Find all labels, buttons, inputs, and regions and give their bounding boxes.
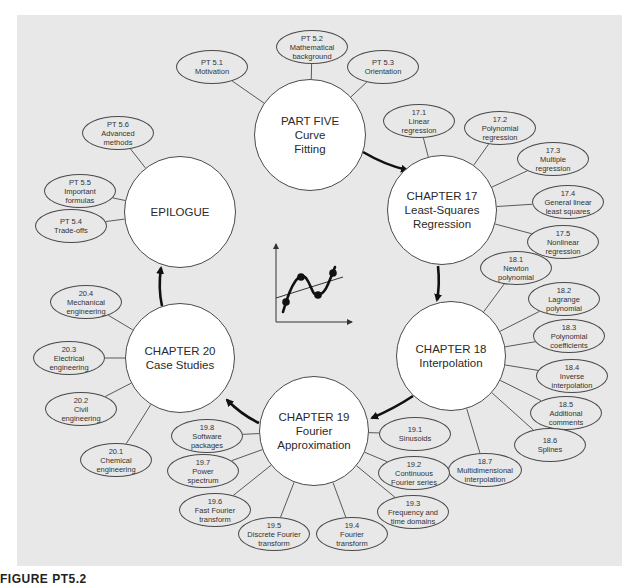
topic-node: 17.2Polynomialregression — [464, 111, 536, 145]
connector-line — [232, 81, 264, 103]
topic-label-line: PT 5.1 — [201, 58, 223, 67]
hub-part5: PART FIVECurveFitting — [254, 79, 366, 191]
connector-line — [500, 380, 541, 400]
topic-label-line: packages — [191, 441, 223, 450]
topic-label-line: transform — [336, 539, 368, 548]
topic-node: 19.5Discrete Fouriertransform — [238, 517, 310, 551]
hub-label-line: EPILOGUE — [151, 205, 210, 219]
topic-label-line: least squares — [546, 207, 591, 216]
topic-label-line: 17.3 — [546, 146, 561, 155]
topic-label-line: comments — [549, 418, 584, 427]
figure-caption: FIGURE PT5.2 — [0, 572, 87, 583]
topic-label-line: 20.2 — [74, 396, 89, 405]
connector-line — [232, 450, 263, 461]
topic-label-line: PT 5.5 — [69, 178, 91, 187]
topic-label-line: Mechanical — [67, 298, 105, 307]
topic-label-line: transform — [199, 515, 231, 524]
topic-label-line: Frequency and — [388, 508, 438, 517]
hub-label-line: Least-Squares — [405, 203, 480, 217]
connector-line — [495, 224, 531, 234]
topic-label-line: 17.2 — [493, 115, 508, 124]
topic-node: PT 5.2Mathematicalbackground — [276, 30, 348, 64]
topic-label-line: Linear — [409, 117, 430, 126]
topic-node: 18.2Lagrangepolynomial — [528, 282, 600, 316]
topic-label-line: engineering — [49, 363, 88, 372]
connector-line — [492, 393, 533, 430]
topic-node: 18.5Additionalcomments — [530, 396, 602, 430]
topic-node: 19.3Frequency andtime domains — [377, 495, 449, 529]
topic-node: 20.4Mechanicalengineering — [50, 285, 122, 319]
topic-label-line: Newton — [503, 264, 528, 273]
topic-label-line: transform — [258, 539, 290, 548]
topic-label-line: 17.1 — [412, 108, 427, 117]
topic-node: 19.1Sinusoids — [379, 417, 451, 451]
hub-label-line: PART FIVE — [281, 114, 339, 128]
curve-fitting-plot-icon — [273, 243, 353, 325]
connector-line — [106, 219, 125, 221]
topic-node: 19.8Softwarepackages — [171, 419, 243, 453]
topic-node: 18.3Polynomialcoefficients — [533, 319, 605, 353]
connector-line — [280, 482, 294, 517]
connector-line — [474, 144, 489, 165]
topic-label-line: 19.4 — [345, 521, 360, 530]
topic-label-line: Sinusoids — [399, 434, 432, 443]
connector-line — [333, 483, 346, 518]
topic-label-line: Continuous — [395, 469, 433, 478]
topic-label-line: spectrum — [188, 476, 219, 485]
connector-line — [505, 342, 535, 347]
topic-label-line: Lagrange — [548, 295, 580, 304]
hub-label-line: Case Studies — [146, 358, 214, 372]
hub-ch18: CHAPTER 18Interpolation — [396, 301, 506, 411]
hub-ch17: CHAPTER 17Least-SquaresRegression — [387, 155, 497, 265]
topic-label-line: Additional — [550, 409, 583, 418]
topic-label-line: 20.3 — [62, 345, 77, 354]
topic-label-line: time domains — [391, 517, 436, 526]
topic-label-line: Mathematical — [290, 43, 335, 52]
topic-label-line: Trade-offs — [54, 226, 88, 235]
connector-line — [505, 365, 538, 370]
connector-line — [108, 315, 132, 330]
topic-label-line: 17.5 — [556, 229, 571, 238]
topic-label-line: Inverse — [560, 372, 585, 381]
topic-label-line: 18.3 — [562, 323, 577, 332]
topic-node: 20.3Electricalengineering — [33, 341, 105, 375]
hub-label-line: Fitting — [294, 142, 325, 156]
topic-label-line: Fourier series — [391, 478, 437, 487]
topic-node: 18.7Multidimensionalinterpolation — [448, 453, 522, 487]
hub-label-line: CHAPTER 18 — [416, 342, 487, 356]
topic-label-line: 19.1 — [408, 425, 423, 434]
topic-node: 19.2ContinuousFourier series — [378, 456, 450, 490]
hub-ch20: CHAPTER 20Case Studies — [125, 303, 235, 413]
hub-label-line: CHAPTER 17 — [407, 189, 478, 203]
topic-label-line: 19.6 — [208, 497, 223, 506]
topic-label-line: Software — [192, 432, 222, 441]
connector-line — [105, 383, 131, 396]
hub-label-line: Approximation — [277, 438, 351, 452]
connector-line — [467, 409, 480, 453]
topic-label-line: interpolation — [552, 381, 593, 390]
connector-line — [351, 82, 367, 97]
topic-node: 17.1Linearregression — [383, 104, 455, 138]
connector-line — [243, 434, 259, 435]
topic-node: PT 5.6Advancedmethods — [82, 116, 154, 150]
topic-node: PT 5.3Orientation — [347, 50, 419, 84]
topic-node: 20.1Chemicalengineering — [80, 443, 152, 477]
connector-line — [492, 171, 527, 187]
topic-node: 18.6Splines — [514, 428, 586, 462]
topic-label-line: Polynomial — [482, 124, 519, 133]
topic-label-line: 18.2 — [557, 286, 572, 295]
hub-label-line: Interpolation — [419, 356, 482, 370]
topic-label-line: background — [292, 52, 331, 61]
topic-node: 18.1Newtonpolynomial — [480, 251, 552, 285]
hub-label-line: CHAPTER 19 — [279, 410, 350, 424]
topic-label-line: Fourier — [340, 530, 364, 539]
topic-node: PT 5.5Importantformulas — [44, 174, 116, 208]
hub-label-line: Curve — [295, 128, 326, 142]
connector-line — [365, 452, 387, 461]
flow-arrow — [372, 396, 413, 418]
topic-label-line: General linear — [544, 198, 591, 207]
topic-label-line: Nonlinear — [547, 238, 579, 247]
hub-label-line: Regression — [413, 217, 471, 231]
topic-label-line: 18.5 — [559, 400, 574, 409]
topic-label-line: PT 5.2 — [301, 34, 323, 43]
